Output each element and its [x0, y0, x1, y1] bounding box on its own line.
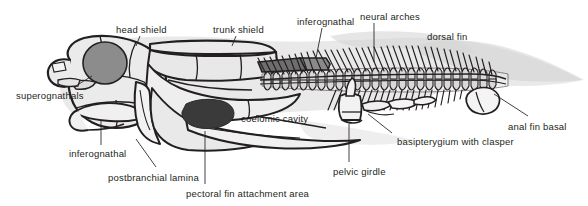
leader-postbranchial-lamina — [136, 139, 156, 167]
label-trunk-shield: trunk shield — [213, 24, 264, 35]
pectoral-fin-attachment-area — [182, 99, 234, 128]
label-postbranchial-lamina: postbranchial lamina — [108, 172, 199, 183]
anal-fin-basal — [466, 88, 499, 115]
skeletal-reconstruction-drawing — [0, 0, 588, 206]
label-basipterygium-with-clasper: basipterygium with clasper — [397, 136, 514, 147]
label-neural-arches: neural arches — [360, 11, 420, 22]
label-superognathals: superognathals — [16, 90, 84, 101]
placoderm-anatomy-figure: head shield trunk shield inferognathal n… — [0, 0, 588, 206]
label-pelvic-girdle: pelvic girdle — [333, 166, 386, 177]
label-coelomic-cavity: coelomic cavity — [241, 113, 308, 124]
label-pectoral-fin-attachment: pectoral fin attachment area — [186, 188, 309, 199]
label-anal-fin-basal: anal fin basal — [508, 121, 567, 132]
label-head-shield: head shield — [116, 24, 167, 35]
label-inferognathal-bottom: inferognathal — [69, 148, 126, 159]
label-dorsal-fin: dorsal fin — [427, 31, 467, 42]
leader-basipterygium — [368, 114, 392, 133]
label-inferognathal-top: inferognathal — [297, 16, 354, 27]
